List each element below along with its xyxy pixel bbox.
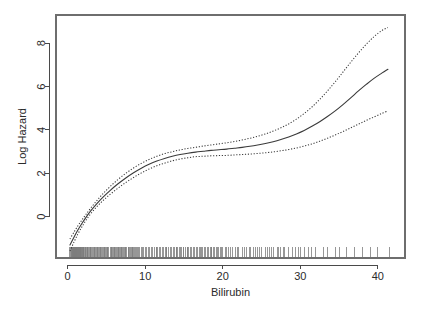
x-axis-title: Bilirubin (211, 286, 250, 298)
chart-container: 010203040 02468 Bilirubin Log Hazard (0, 0, 425, 312)
y-tick-label: 4 (35, 127, 47, 133)
x-tick-label: 0 (65, 270, 71, 282)
y-tick-label: 2 (35, 170, 47, 176)
log-hazard-vs-bilirubin-plot: 010203040 02468 Bilirubin Log Hazard (0, 0, 425, 312)
y-tick-label: 0 (35, 214, 47, 220)
curve-lower_confidence_band (70, 111, 388, 251)
y-tick-label: 6 (35, 84, 47, 90)
plot-frame-group (56, 15, 405, 258)
x-axis: 010203040 (65, 265, 384, 282)
y-axis: 02468 (35, 40, 49, 220)
curve-upper_confidence_band (70, 28, 388, 239)
curve-fit (70, 69, 388, 245)
curve-series-group (70, 28, 388, 251)
y-axis-title: Log Hazard (16, 108, 28, 165)
x-tick-label: 10 (139, 270, 151, 282)
x-tick-label: 20 (217, 270, 229, 282)
x-tick-label: 40 (372, 270, 384, 282)
plot-frame (56, 15, 405, 258)
x-tick-label: 30 (294, 270, 306, 282)
data-rug (70, 247, 390, 257)
y-tick-label: 8 (35, 40, 47, 46)
